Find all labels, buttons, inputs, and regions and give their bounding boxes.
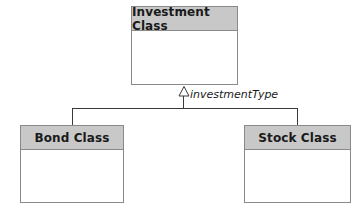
investment-class-name: Investment Class <box>132 5 237 33</box>
stock-class-header: Stock Class <box>245 126 350 150</box>
generalization-arrow-icon <box>178 86 190 98</box>
generalization-bar <box>72 108 298 109</box>
investment-class-header: Investment Class <box>132 7 237 31</box>
discriminator-label: investmentType <box>190 88 278 101</box>
stock-connector <box>297 108 298 126</box>
bond-class-header: Bond Class <box>21 126 123 150</box>
bond-connector <box>72 108 73 126</box>
bond-class-name: Bond Class <box>34 131 109 145</box>
bond-class-box: Bond Class <box>20 125 124 203</box>
stock-class-name: Stock Class <box>258 131 336 145</box>
stock-class-box: Stock Class <box>244 125 351 203</box>
investment-class-box: Investment Class <box>131 6 238 85</box>
